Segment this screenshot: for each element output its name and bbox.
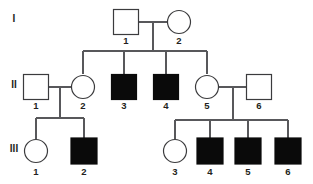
individual-III-5-male-affected[interactable] (235, 138, 261, 164)
generation-label-III: III (10, 143, 19, 154)
mating-II-1-II-2 (49, 87, 72, 118)
individual-II-2-female-unaffected[interactable] (72, 76, 95, 99)
individual-number-III-6: 6 (285, 166, 290, 177)
pedigree-chart: I12II123456III123456 (0, 0, 313, 184)
individual-II-6-male-unaffected[interactable] (247, 75, 272, 100)
sibship-generation-III-right (175, 120, 288, 139)
individual-III-4-male-affected[interactable] (197, 138, 223, 164)
individual-number-III-5: 5 (245, 166, 251, 177)
generation-label-II: II (11, 79, 17, 90)
sibship-generation-II (83, 51, 207, 74)
individual-II-1-male-unaffected[interactable] (24, 75, 49, 100)
individual-number-II-6: 6 (256, 100, 261, 111)
pedigree-canvas: I12II123456III123456 (0, 0, 313, 184)
individual-II-5-female-unaffected[interactable] (196, 76, 219, 99)
individual-number-I-1: 1 (123, 35, 129, 46)
individual-III-3-female-unaffected[interactable] (164, 140, 187, 163)
individual-III-6-male-affected[interactable] (275, 138, 301, 164)
individual-I-1-male-unaffected[interactable] (114, 10, 139, 35)
mating-I-1-I-2 (139, 22, 167, 51)
individual-I-2-female-unaffected[interactable] (168, 11, 191, 34)
individual-number-III-3: 3 (172, 166, 177, 177)
individual-II-3-male-affected[interactable] (112, 75, 137, 100)
individual-number-II-4: 4 (163, 100, 169, 111)
individual-III-1-female-unaffected[interactable] (25, 140, 48, 163)
individual-number-II-3: 3 (121, 100, 126, 111)
individual-number-II-2: 2 (80, 100, 85, 111)
individual-number-III-4: 4 (207, 166, 213, 177)
individual-number-III-2: 2 (81, 166, 86, 177)
individual-number-I-2: 2 (176, 35, 181, 46)
individual-III-2-male-affected[interactable] (71, 138, 97, 164)
individual-number-II-5: 5 (204, 100, 210, 111)
generation-label-I: I (13, 13, 16, 24)
individual-number-II-1: 1 (33, 100, 39, 111)
sibship-generation-III-left (36, 118, 84, 139)
mating-II-5-II-6 (219, 87, 247, 120)
individual-II-4-male-affected[interactable] (154, 75, 179, 100)
individual-number-III-1: 1 (33, 166, 39, 177)
